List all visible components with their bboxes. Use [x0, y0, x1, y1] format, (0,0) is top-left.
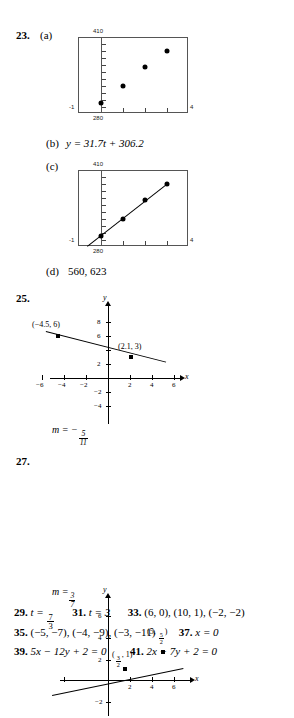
chart-23c-ytick: [102, 198, 106, 199]
chart-27-x-axis-label: x: [195, 674, 199, 683]
answer-row-2: 35. (−5, −7), (−4, −9), (−3, −11) 37. x …: [14, 626, 219, 638]
answer-text-37: x = 0: [195, 626, 218, 638]
data-point: [99, 234, 104, 239]
data-point: [143, 198, 148, 203]
chart-25-ytick: [106, 364, 111, 365]
chart-25-xtick: [86, 375, 87, 380]
chart-27-ytick: [106, 702, 111, 703]
chart-23a-ytick: [102, 86, 106, 87]
chart-25-xtick: [152, 375, 153, 380]
answer-text-35: (−5, −7), (−4, −9), (−3, −11): [31, 626, 156, 638]
answer-text-39: 5x − 12y + 2 = 0: [31, 645, 107, 657]
chart-27-ytick: [106, 638, 111, 639]
chart-23a-ytick: [102, 51, 106, 52]
problem-23-part-b-equation: y = 31.7t + 306.2: [66, 137, 144, 149]
chart-23c-ytick: [102, 205, 106, 206]
chart-23a-xmin-label: -1: [69, 104, 74, 110]
chart-23a-xtick: [123, 108, 124, 112]
chart-25-xtick: [130, 375, 131, 380]
chart-27-xtick: [64, 677, 65, 682]
chart-25-xtick-label: 2: [128, 381, 132, 389]
chart-23c-xtick: [123, 241, 124, 245]
chart-27-line: [52, 668, 183, 696]
problem-25-slope-sign: −: [71, 424, 78, 435]
chart-25-xtick-label: 6: [172, 381, 176, 389]
chart-23c: [78, 170, 188, 246]
chart-23a: [78, 37, 188, 113]
data-point: [143, 65, 148, 70]
chart-23a-ytick: [102, 72, 106, 73]
chart-27-xtick-label: 4: [150, 683, 154, 691]
answer-number-41: 41.: [130, 645, 144, 657]
chart-27-xtick: [174, 677, 175, 682]
data-point: [121, 84, 126, 89]
chart-25-xtick-label: −4: [58, 381, 65, 389]
chart-25-point-2-label: (2.1, 3): [118, 342, 141, 351]
chart-25-ytick-label: 2: [97, 360, 101, 368]
chart-25-x-axis-label: x: [185, 372, 189, 381]
chart-23a-ytick: [102, 65, 106, 66]
problem-number-23: 23.: [16, 29, 30, 41]
chart-25-ytick-label: 8: [97, 318, 101, 326]
chart-23c-ytick: [102, 240, 106, 241]
chart-23c-ytick: [102, 226, 106, 227]
chart-27-ytick-label: 2: [98, 656, 102, 664]
chart-23a-ytick: [102, 44, 106, 45]
chart-23a-xtick: [167, 108, 168, 112]
chart-27-y-axis-label: y: [103, 585, 107, 594]
problem-25-slope-prefix: m =: [52, 424, 68, 435]
chart-23c-xmin-label: -1: [69, 237, 74, 243]
answer-number-33: 33.: [128, 606, 142, 618]
chart-25: x y −6 −4 −2 2 4 6 8 6 2 −2 −4 (−4.5, 6)…: [30, 298, 220, 428]
chart-25-point-1: [56, 334, 60, 338]
chart-25-x-axis: [50, 378, 180, 379]
problem-23-part-b-label: (b): [46, 137, 59, 149]
chart-23a-ymax-label: 410: [93, 28, 103, 34]
chart-25-ytick-label: −2: [94, 388, 101, 396]
problem-23-part-a-label: (a): [40, 29, 52, 41]
chart-25-point-2: [129, 355, 133, 359]
data-point: [165, 182, 170, 187]
problem-27-slope-prefix: m =: [52, 586, 68, 597]
chart-25-xtick: [174, 375, 175, 380]
chart-27-xtick: [152, 677, 153, 682]
answer-row-3: 39. 5x − 12y + 2 = 0 41. 2x − 7y + 2 = 0: [14, 645, 217, 657]
answer-text-33: (6, 0), (10, 1), (−2, −2): [144, 606, 244, 618]
chart-25-y-axis-label: y: [103, 293, 107, 302]
chart-23c-ytick: [102, 177, 106, 178]
chart-25-point-1-label: (−4.5, 6): [32, 320, 60, 329]
chart-27-xtick-label: 2: [128, 683, 132, 691]
data-point: [121, 217, 126, 222]
chart-23c-ymin-label: 280: [93, 248, 103, 254]
chart-27-xtick-label: 6: [172, 683, 176, 691]
chart-23a-ytick: [102, 107, 106, 108]
chart-25-ytick-label: −4: [94, 402, 101, 410]
chart-25-xtick: [42, 375, 43, 380]
chart-23c-xmax-label: 4: [190, 237, 193, 243]
answer-number-37: 37.: [179, 626, 193, 638]
chart-25-xtick-label: 4: [150, 381, 154, 389]
answer-number-35: 35.: [14, 626, 28, 638]
problem-25-slope: m = −511: [52, 424, 89, 447]
problem-number-27: 27.: [16, 455, 30, 467]
answer-text-31: t = 3: [89, 606, 110, 618]
problem-23-part-d-answer: 560, 623: [68, 265, 107, 277]
data-point: [99, 101, 104, 106]
problem-23-part-c-label: (c): [46, 160, 58, 172]
chart-25-xtick-label: −2: [80, 381, 87, 389]
chart-23c-ymax-label: 410: [93, 161, 103, 167]
chart-25-ytick: [106, 392, 111, 393]
answer-number-29: 29.: [14, 606, 28, 618]
chart-23c-ytick: [102, 184, 106, 185]
chart-25-ytick: [106, 350, 111, 351]
problem-25-slope-fraction: 511: [79, 430, 88, 447]
answer-number-39: 39.: [14, 645, 28, 657]
chart-25-xtick: [64, 375, 65, 380]
chart-25-ytick-label: 6: [97, 332, 101, 340]
chart-27-ytick: [106, 660, 111, 661]
answer-text-41: 2x − 7y + 2 = 0: [147, 645, 218, 657]
chart-25-ytick: [106, 406, 111, 407]
chart-23a-ytick: [102, 93, 106, 94]
chart-27-ytick-label: −2: [95, 698, 102, 706]
